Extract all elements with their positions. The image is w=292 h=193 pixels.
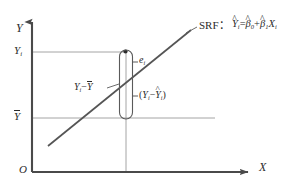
beta0-sub: 0 <box>251 23 254 30</box>
expl-right-sub: i <box>161 94 163 101</box>
total-deviation-label: Yi−Y <box>74 82 93 92</box>
srf-leader <box>186 27 197 33</box>
explained-deviation-label: (Yi−^Yi) <box>139 90 166 100</box>
x-base: X <box>268 18 274 29</box>
paren-close: ) <box>163 89 166 100</box>
overbar-glyph <box>14 110 19 111</box>
regression-decomposition-diagram: Y X O Yi Y SRF： ^Yi=^β0+^β1Xi ei Yi−Y (Y… <box>0 0 292 193</box>
srf-colon: ： <box>219 19 230 31</box>
srf-prefix-label: SRF <box>199 19 219 31</box>
srf-annotation: SRF： <box>199 20 230 31</box>
expl-left-sub: i <box>148 94 150 101</box>
tick-ybar-overline-group: Y <box>14 111 20 122</box>
yhat-sub: i <box>238 23 240 30</box>
total-dev-left-base: Y <box>74 81 80 92</box>
x-sub: i <box>275 23 277 30</box>
hat-glyph: ^ <box>155 85 160 94</box>
overbar-glyph <box>87 81 92 82</box>
residual-label: ei <box>139 55 145 65</box>
residual-sub: i <box>143 59 145 66</box>
tick-ybar-base: Y <box>14 110 20 122</box>
x-axis-label: X <box>259 161 266 173</box>
tick-yi-sub: i <box>20 50 22 57</box>
tick-label-yi: Yi <box>14 45 22 56</box>
total-dev-right-base: Y <box>87 81 93 92</box>
tick-label-ybar: Y <box>14 111 20 122</box>
total-dev-ybar-group: Y <box>87 82 93 92</box>
total-deviation-leader <box>107 84 119 88</box>
srf-equation: ^Yi=^β0+^β1Xi <box>232 19 277 30</box>
beta1-sub: 1 <box>265 23 268 30</box>
yhat-group: ^Y <box>232 19 238 30</box>
hat-glyph: ^ <box>246 14 251 24</box>
expl-yhat-group: ^Y <box>155 90 161 100</box>
y-axis-label: Y <box>16 22 23 34</box>
origin-label: O <box>19 164 27 175</box>
hat-glyph: ^ <box>232 14 237 24</box>
hat-glyph: ^ <box>260 14 265 24</box>
